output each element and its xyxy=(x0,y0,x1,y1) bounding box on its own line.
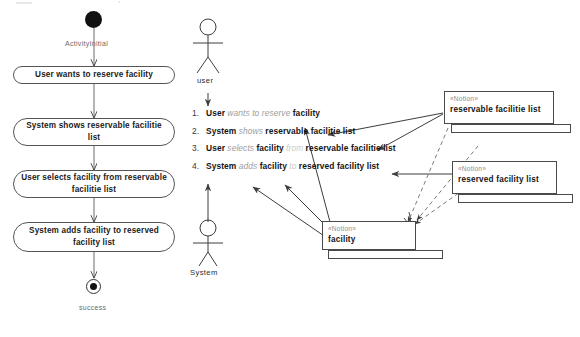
step-token: reservable facilitie list xyxy=(265,126,355,136)
list-item[interactable]: 1.User wants to reserve facility xyxy=(192,108,442,126)
notion-stereotype: «Notion» xyxy=(450,94,548,104)
notion-reserved-base xyxy=(458,194,573,203)
step-token: from xyxy=(286,143,303,153)
list-item[interactable]: 3.User selects facility from reservable … xyxy=(192,143,442,161)
step-token: facility xyxy=(260,161,287,171)
notion-reservable-facilitie-list[interactable]: «Notion» reservable facilitie list xyxy=(444,91,554,124)
notion-facility[interactable]: «Notion» facility xyxy=(322,221,416,250)
step-token: reserved facility list xyxy=(299,161,379,171)
step-token: selects xyxy=(227,143,254,153)
step-number: 2. xyxy=(192,126,206,136)
step-token: reservable facilitie list xyxy=(306,143,396,153)
notion-name: reservable facilitie list xyxy=(450,104,548,116)
list-item[interactable]: 2.System shows reservable facilitie list xyxy=(192,126,442,144)
step-number: 1. xyxy=(192,108,206,118)
step-token: User xyxy=(206,108,225,118)
step-list: 1.User wants to reserve facility 2.Syste… xyxy=(192,108,442,178)
step-token: System xyxy=(206,161,236,171)
notion-name: facility xyxy=(328,234,410,246)
notion-facility-base xyxy=(328,250,443,259)
step-token: to xyxy=(289,161,296,171)
notion-stereotype: «Notion» xyxy=(328,224,410,234)
step-token: facility xyxy=(256,143,283,153)
step-token: User xyxy=(206,143,225,153)
step-token: System xyxy=(206,126,236,136)
step-token: adds xyxy=(239,161,258,171)
actor-system-figure xyxy=(193,220,223,266)
notion-reserved-facility-list[interactable]: «Notion» reserved facility list xyxy=(452,161,557,194)
notion-name: reserved facility list xyxy=(458,174,551,186)
step-token: facility xyxy=(293,108,320,118)
actor-user-label: user xyxy=(197,76,213,85)
step-number: 3. xyxy=(192,143,206,153)
actor-system-label: System xyxy=(190,268,218,277)
list-item[interactable]: 4.System adds facility to reserved facil… xyxy=(192,161,442,179)
actor-user-figure xyxy=(193,19,223,73)
step-number: 4. xyxy=(192,161,206,171)
uml-diagram-canvas: ActivityInitial User wants to reserve fa… xyxy=(0,0,580,337)
notion-stereotype: «Notion» xyxy=(458,164,551,174)
notion-reservable-base xyxy=(451,124,571,133)
step-token: shows xyxy=(239,126,263,136)
step-token: wants to reserve xyxy=(227,108,290,118)
